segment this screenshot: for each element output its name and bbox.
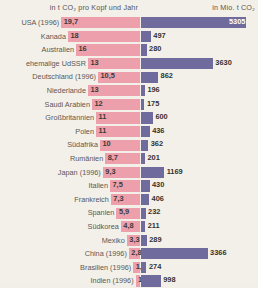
country-label: Frankreich [74, 193, 108, 207]
total-emissions-bar [141, 44, 147, 55]
chart-row: 12Saudi Arabien175 [0, 98, 258, 112]
per-capita-bar [68, 31, 140, 42]
chart-row: 16Australien280 [0, 43, 258, 57]
per-capita-value: 8,7 [108, 152, 118, 164]
total-emissions-value: 201 [147, 152, 159, 164]
chart-row: 1,7Brasilien (1996)274 [0, 261, 258, 275]
country-label: China (1996) [85, 247, 127, 261]
chart-row: 19,7USA (1996)5305 [0, 16, 258, 30]
per-capita-value: 10,5 [101, 70, 115, 82]
total-emissions-bar [141, 85, 145, 96]
per-capita-value: 19,7 [64, 16, 78, 28]
country-label: Australien [42, 43, 74, 57]
country-label: USA (1996) [21, 16, 59, 30]
total-emissions-bar [141, 31, 151, 42]
chart-row: 2,8China (1996)3366 [0, 247, 258, 261]
total-emissions-bar [141, 112, 153, 123]
chart-row: 7,3Frankreich406 [0, 193, 258, 207]
per-capita-value: 5,9 [119, 206, 129, 218]
country-label: Spanien [88, 206, 115, 220]
country-label: Japan (1996) [58, 166, 101, 180]
country-label: Deutschland (1996) [32, 70, 96, 84]
total-emissions-value: 3366 [210, 247, 226, 259]
chart-row: 8,7Rumänien201 [0, 152, 258, 166]
total-emissions-bar [141, 248, 208, 259]
total-emissions-value: 5305 [229, 16, 245, 28]
per-capita-value: 11 [99, 125, 107, 137]
total-emissions-value: 430 [152, 179, 164, 191]
total-emissions-bar [141, 153, 145, 164]
total-emissions-value: 280 [149, 43, 161, 55]
left-axis-title: in t CO₂ pro Kopf und Jahr [0, 3, 140, 12]
per-capita-value: 10 [103, 138, 111, 150]
total-emissions-value: 196 [147, 84, 159, 96]
per-capita-value: 18 [71, 30, 79, 42]
total-emissions-value: 406 [152, 193, 164, 205]
country-label: Brasilien (1996) [80, 261, 131, 275]
per-capita-value: 16 [79, 43, 87, 55]
country-label: Polen [75, 125, 94, 139]
per-capita-value: 4,8 [123, 220, 133, 232]
per-capita-value: 7,5 [113, 179, 123, 191]
total-emissions-value: 600 [155, 111, 167, 123]
per-capita-value: 9,3 [105, 166, 115, 178]
country-label: Kanada [41, 30, 66, 44]
country-label: Rumänien [70, 152, 103, 166]
total-emissions-value: 274 [149, 261, 161, 273]
total-emissions-value: 362 [151, 138, 163, 150]
chart-row: 11Großbritannien600 [0, 111, 258, 125]
per-capita-value: 11 [99, 111, 107, 123]
chart-row: 11Polen436 [0, 125, 258, 139]
total-emissions-bar [141, 235, 147, 246]
per-capita-value: 13 [91, 57, 99, 69]
total-emissions-value: 436 [152, 125, 164, 137]
chart-row: 13Niederlande196 [0, 84, 258, 98]
country-label: ehemalige UdSSR [26, 57, 86, 71]
total-emissions-bar [141, 58, 213, 69]
total-emissions-bar [141, 221, 145, 232]
chart-row: 9,3Japan (1996)1169 [0, 166, 258, 180]
per-capita-value: 3,3 [129, 234, 139, 246]
country-label: Italien [89, 179, 108, 193]
total-emissions-value: 211 [148, 220, 160, 232]
country-label: Niederlande [47, 84, 86, 98]
chart-row: 18Kanada497 [0, 30, 258, 44]
total-emissions-value: 289 [149, 234, 161, 246]
total-emissions-value: 998 [163, 274, 175, 286]
total-emissions-bar [141, 275, 161, 286]
per-capita-value: 7,3 [113, 193, 123, 205]
total-emissions-value: 175 [147, 98, 159, 110]
total-emissions-bar [141, 126, 150, 137]
chart-row: 13ehemalige UdSSR3630 [0, 57, 258, 71]
country-label: Mexiko [102, 234, 125, 248]
total-emissions-bar [141, 167, 164, 178]
total-emissions-value: 232 [148, 206, 160, 218]
country-label: Saudi Arabien [45, 98, 90, 112]
chart-row: 7,5Italien430 [0, 179, 258, 193]
total-emissions-value: 1169 [167, 166, 183, 178]
total-emissions-value: 862 [161, 70, 173, 82]
total-emissions-bar [141, 194, 149, 205]
chart-row: 10,5Deutschland (1996)862 [0, 70, 258, 84]
total-emissions-bar [141, 99, 144, 110]
per-capita-value: 13 [91, 84, 99, 96]
chart-row: 1,1Indien (1996)998 [0, 274, 258, 288]
total-emissions-value: 3630 [215, 57, 231, 69]
total-emissions-bar [141, 72, 158, 83]
country-label: Südkorea [88, 220, 119, 234]
country-label: Großbritannien [45, 111, 94, 125]
chart-row: 5,9Spanien232 [0, 206, 258, 220]
chart-row: 10Südafrika362 [0, 138, 258, 152]
total-emissions-bar [141, 262, 146, 273]
chart-rows: 19,7USA (1996)530518Kanada49716Australie… [0, 16, 258, 288]
chart-row: 3,3Mexiko289 [0, 234, 258, 248]
country-label: Südafrika [67, 138, 98, 152]
total-emissions-value: 497 [153, 30, 165, 42]
right-axis-title: in Mio. t CO₂ [140, 3, 258, 12]
total-emissions-bar [141, 140, 148, 151]
total-emissions-bar [141, 180, 150, 191]
per-capita-value: 12 [95, 98, 103, 110]
total-emissions-bar [141, 208, 146, 219]
country-label: Indien (1996) [91, 274, 134, 288]
